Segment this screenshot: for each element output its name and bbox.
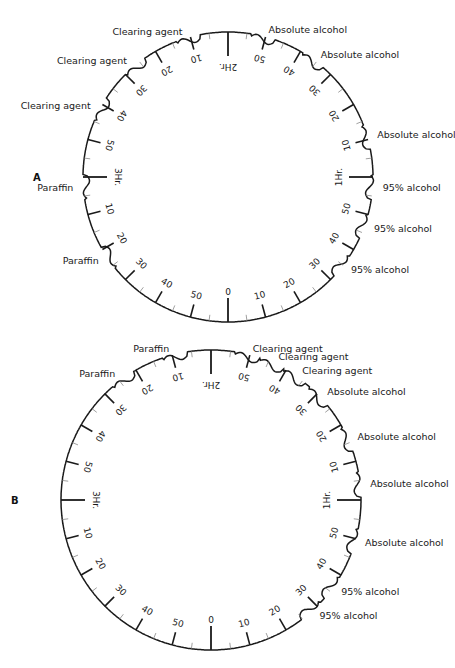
tick-mark bbox=[308, 597, 317, 606]
hour-label-top: 2Hr. bbox=[202, 380, 220, 390]
tick-mark bbox=[246, 33, 247, 39]
station-label: Clearing agent bbox=[302, 365, 372, 376]
tick-mark bbox=[356, 122, 362, 124]
station-label: Paraffin bbox=[37, 182, 73, 193]
minute-label: 40 bbox=[267, 382, 282, 397]
tick-mark bbox=[92, 409, 97, 413]
tick-mark bbox=[356, 139, 369, 142]
station-label: Absolute alcohol bbox=[365, 537, 444, 548]
tick-mark bbox=[88, 211, 101, 214]
tick-mark bbox=[190, 305, 193, 318]
minute-label: 30 bbox=[134, 83, 149, 98]
tick-mark bbox=[62, 480, 68, 481]
minute-label: 50 bbox=[340, 202, 353, 216]
tick-mark bbox=[338, 89, 343, 93]
tick-mark bbox=[342, 243, 353, 250]
minute-label: 30 bbox=[134, 256, 149, 271]
tick-mark bbox=[356, 211, 369, 214]
minute-label: 20 bbox=[327, 108, 342, 123]
station-label: Clearing agent bbox=[57, 55, 127, 66]
station-label: 95% alcohol bbox=[341, 586, 399, 597]
station-label: Absolute alcohol bbox=[377, 129, 455, 140]
minute-label: 20 bbox=[314, 429, 329, 444]
minute-label: 30 bbox=[113, 583, 128, 598]
minute-label: 30 bbox=[294, 582, 309, 597]
tick-mark bbox=[72, 443, 78, 445]
minute-label: 40 bbox=[314, 556, 329, 571]
minute-label: 10 bbox=[103, 202, 116, 216]
minute-label: 40 bbox=[159, 276, 174, 291]
tick-mark bbox=[94, 230, 100, 232]
minute-label: 40 bbox=[115, 108, 130, 123]
tick-mark bbox=[125, 270, 134, 279]
tick-mark bbox=[294, 291, 301, 302]
tick-mark bbox=[325, 409, 330, 413]
tissue-processor-dial-diagram: 1020304050102030405010203040501020304050… bbox=[0, 0, 455, 668]
tick-mark bbox=[366, 158, 372, 159]
tick-mark bbox=[72, 555, 78, 557]
tick-mark bbox=[262, 305, 265, 318]
tick-mark bbox=[246, 632, 249, 645]
station-label: Absolute alcohol bbox=[370, 478, 449, 489]
tick-mark bbox=[154, 633, 156, 639]
minute-label: 10 bbox=[340, 138, 353, 152]
minute-label: 50 bbox=[189, 289, 203, 302]
minute-label: 20 bbox=[267, 603, 282, 618]
tick-mark bbox=[343, 461, 356, 464]
tick-mark bbox=[321, 270, 330, 279]
minute-label: 30 bbox=[113, 402, 128, 417]
tick-mark bbox=[294, 51, 301, 62]
tick-mark bbox=[136, 370, 143, 381]
minute-label: 30 bbox=[307, 83, 322, 98]
hour-label-top: 2Hr. bbox=[219, 62, 237, 72]
tick-mark bbox=[156, 51, 163, 62]
minute-label: 20 bbox=[159, 64, 174, 79]
tick-mark bbox=[321, 74, 330, 83]
minute-label: 30 bbox=[307, 256, 322, 271]
station-label: 95% alcohol bbox=[319, 610, 377, 621]
station-label: Paraffin bbox=[63, 255, 99, 266]
tick-mark bbox=[105, 394, 114, 403]
tick-mark bbox=[81, 425, 92, 432]
tick-mark bbox=[94, 122, 100, 124]
hour-label-left: 3Hr. bbox=[113, 168, 123, 186]
tick-mark bbox=[62, 519, 68, 520]
hour-label-right: 1Hr. bbox=[334, 168, 344, 186]
station-label: 95% alcohol bbox=[351, 264, 409, 275]
tick-mark bbox=[172, 632, 175, 645]
tick-mark bbox=[354, 519, 360, 520]
station-label: Clearing agent bbox=[253, 343, 323, 354]
tick-mark bbox=[66, 535, 79, 538]
tick-mark bbox=[209, 315, 210, 321]
station-label: Paraffin bbox=[133, 343, 169, 354]
tick-mark bbox=[356, 230, 362, 232]
minute-label: 40 bbox=[282, 64, 297, 79]
minute-label: 50 bbox=[81, 460, 94, 474]
minute-label: 20 bbox=[140, 382, 155, 397]
hour-label-bottom: 0 bbox=[208, 615, 214, 625]
station-label: Absolute alcohol bbox=[269, 24, 348, 35]
minute-label: 10 bbox=[328, 460, 341, 474]
tick-mark bbox=[136, 619, 143, 630]
tick-mark bbox=[113, 89, 118, 93]
tick-mark bbox=[120, 614, 124, 619]
tick-mark bbox=[81, 569, 92, 576]
tick-mark bbox=[266, 633, 268, 639]
station-label: Absolute alcohol bbox=[321, 49, 400, 60]
minute-label: 30 bbox=[293, 402, 308, 417]
tick-mark bbox=[156, 291, 163, 302]
tick-mark bbox=[281, 305, 283, 311]
tick-mark bbox=[281, 43, 283, 49]
hour-label-bottom: 0 bbox=[225, 287, 231, 297]
tick-mark bbox=[88, 139, 101, 142]
minute-label: 50 bbox=[103, 138, 116, 152]
minute-label: 10 bbox=[82, 526, 95, 540]
tick-mark bbox=[313, 62, 317, 67]
minute-label: 50 bbox=[171, 617, 185, 630]
tick-mark bbox=[140, 62, 144, 67]
tick-mark bbox=[84, 195, 90, 196]
minute-label: 10 bbox=[189, 52, 203, 65]
minute-label: 40 bbox=[93, 429, 108, 444]
tick-mark bbox=[209, 33, 210, 39]
tick-mark bbox=[280, 619, 287, 630]
